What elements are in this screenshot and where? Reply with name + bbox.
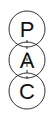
label-c: C xyxy=(19,79,35,104)
label-p: P xyxy=(20,17,35,42)
label-a: A xyxy=(20,48,35,73)
pac-diagram: P A C xyxy=(0,0,56,120)
